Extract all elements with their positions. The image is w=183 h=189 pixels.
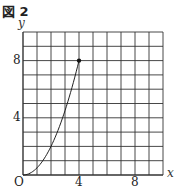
x-tick-4: 4 [75, 175, 83, 189]
grid-lines [23, 32, 163, 175]
x-axis-label: x [167, 166, 174, 180]
origin-label: O [14, 175, 24, 189]
endpoint-marker [77, 58, 81, 62]
y-axis-label: y [18, 16, 25, 30]
y-tick-4: 4 [13, 110, 21, 124]
y-tick-8: 8 [13, 53, 21, 67]
graph-plot [0, 0, 183, 189]
x-tick-8: 8 [131, 175, 139, 189]
